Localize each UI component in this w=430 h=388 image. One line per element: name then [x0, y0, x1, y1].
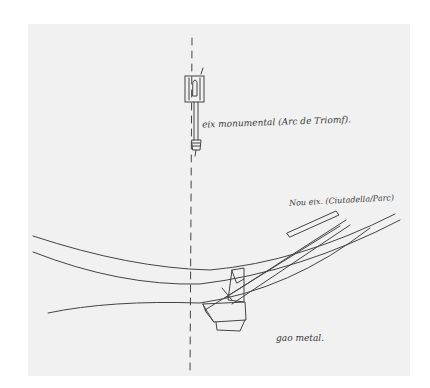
- curve-lower: [48, 228, 370, 313]
- monument-figure: [185, 68, 204, 156]
- new-axis-bar: [287, 211, 339, 237]
- curve-upper: [33, 214, 395, 270]
- dashed-axis-line: [190, 38, 192, 375]
- annotation-object-label: gao metal.: [276, 333, 324, 343]
